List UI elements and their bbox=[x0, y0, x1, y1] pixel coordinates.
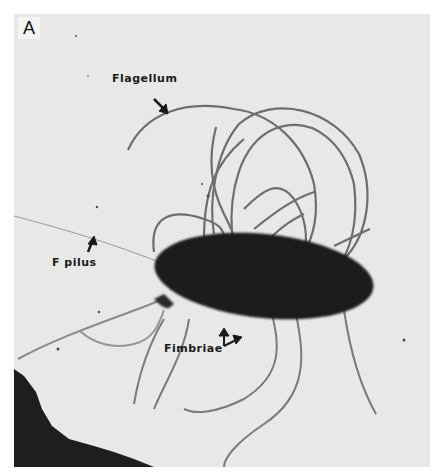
f-pilus-label: F pilus bbox=[52, 256, 97, 269]
flagellum-label: Flagellum bbox=[112, 72, 177, 85]
micrograph-figure: A Flagellum F pilus Fimbriae bbox=[14, 14, 430, 467]
micrograph-image bbox=[14, 14, 430, 467]
panel-label: A bbox=[18, 17, 40, 39]
fimbriae-label: Fimbriae bbox=[164, 342, 223, 355]
